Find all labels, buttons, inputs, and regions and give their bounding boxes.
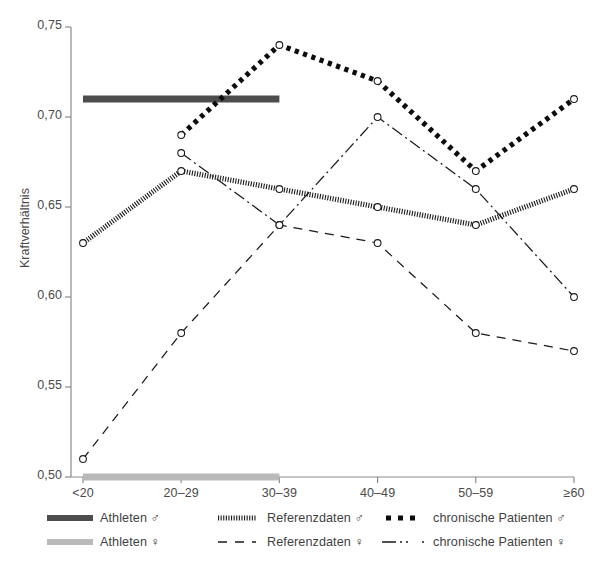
data-point-marker — [472, 168, 479, 175]
legend-label-athleten-m: Athleten ♂ — [100, 511, 160, 525]
line-dashed — [83, 225, 574, 459]
legend-label-referenz-m: Referenzdaten ♂ — [267, 511, 364, 525]
legend-swatch-chronische-m — [380, 511, 426, 525]
legend-swatch-athleten-m — [47, 511, 93, 525]
data-point-marker — [276, 42, 283, 49]
y-tick-label: 0,70 — [14, 108, 62, 122]
chart-legend: Athleten ♂Athleten ♀Referenzdaten ♂Refer… — [0, 508, 598, 556]
data-point-marker — [374, 204, 381, 211]
data-point-marker — [276, 222, 283, 229]
line-hatched — [83, 171, 574, 243]
legend-label-chronische-w: chronische Patienten ♀ — [433, 535, 566, 549]
data-point-marker — [571, 186, 578, 193]
data-point-marker — [178, 132, 185, 139]
data-point-marker — [178, 150, 185, 157]
data-point-marker — [178, 168, 185, 175]
legend-key-dash-dot — [380, 535, 426, 549]
legend-swatch-athleten-w — [47, 535, 93, 549]
data-point-marker — [571, 294, 578, 301]
x-tick-label: ≥60 — [537, 486, 598, 500]
legend-item-referenz-w[interactable]: Referenzdaten ♀ — [214, 532, 364, 552]
axis-group — [65, 27, 574, 483]
y-tick-label: 0,50 — [14, 468, 62, 482]
legend-swatch-chronische-w — [380, 535, 426, 549]
data-point-marker — [80, 240, 87, 247]
y-tick-label: 0,65 — [14, 198, 62, 212]
data-point-marker — [472, 186, 479, 193]
series-group — [80, 42, 578, 477]
legend-label-athleten-w: Athleten ♀ — [100, 535, 160, 549]
series-thick-dashed — [178, 42, 578, 175]
data-point-marker — [571, 96, 578, 103]
data-point-marker — [571, 348, 578, 355]
legend-item-chronische-m[interactable]: chronische Patienten ♂ — [380, 508, 566, 528]
line-thick-dashed — [181, 45, 574, 171]
x-tick-label: 30–39 — [242, 486, 316, 500]
data-point-marker — [472, 222, 479, 229]
series-dashed — [80, 222, 578, 463]
y-tick-label: 0,55 — [14, 378, 62, 392]
legend-item-athleten-m[interactable]: Athleten ♂ — [47, 508, 160, 528]
data-point-marker — [374, 78, 381, 85]
legend-item-athleten-w[interactable]: Athleten ♀ — [47, 532, 160, 552]
x-tick-label: 20–29 — [144, 486, 218, 500]
x-tick-label: 40–49 — [341, 486, 415, 500]
legend-item-referenz-m[interactable]: Referenzdaten ♂ — [214, 508, 364, 528]
legend-item-chronische-w[interactable]: chronische Patienten ♀ — [380, 532, 566, 552]
x-tick-label: <20 — [46, 486, 120, 500]
data-point-marker — [80, 456, 87, 463]
y-tick-label: 0,75 — [14, 18, 62, 32]
chart-figure: Kraftverhältnis 0,750,700,650,600,550,50… — [0, 0, 598, 573]
legend-swatch-referenz-m — [214, 511, 260, 525]
y-tick-label: 0,60 — [14, 288, 62, 302]
axis-lines — [71, 27, 574, 477]
legend-label-referenz-w: Referenzdaten ♀ — [267, 535, 364, 549]
data-point-marker — [276, 186, 283, 193]
legend-key-dashed — [214, 535, 260, 549]
legend-swatch-referenz-w — [214, 535, 260, 549]
legend-key-thick-solid-light — [47, 535, 93, 549]
data-point-marker — [472, 330, 479, 337]
legend-label-chronische-m: chronische Patienten ♂ — [433, 511, 566, 525]
data-point-marker — [374, 240, 381, 247]
data-point-marker — [178, 330, 185, 337]
legend-key-thick-solid-dark — [47, 511, 93, 525]
legend-key-hatched — [214, 511, 260, 525]
x-tick-label: 50–59 — [439, 486, 513, 500]
legend-key-thick-dashed — [380, 511, 426, 525]
data-point-marker — [374, 114, 381, 121]
